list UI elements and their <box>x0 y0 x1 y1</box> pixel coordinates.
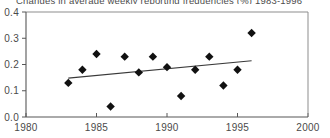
x-axis-ticks <box>26 113 308 117</box>
data-point <box>64 79 72 87</box>
data-point <box>106 102 114 110</box>
y-tick-label: 0.0 <box>4 112 19 123</box>
y-tick-label: 0.2 <box>4 59 19 70</box>
y-tick-label: 0.3 <box>4 33 19 44</box>
chart-title: Changes in average weekly reporting freq… <box>16 0 326 4</box>
trend-line <box>68 61 251 78</box>
y-tick-label: 0.1 <box>4 85 19 96</box>
data-point <box>149 52 157 60</box>
data-point <box>247 29 255 37</box>
x-tick-label: 2000 <box>296 122 320 133</box>
y-axis-labels: 0.00.10.20.30.4 <box>4 7 19 123</box>
y-axis-ticks <box>22 12 26 117</box>
x-tick-label: 1980 <box>14 122 38 133</box>
scatter-plot: 0.00.10.20.30.4 19801985199019952000 <box>0 0 330 138</box>
y-tick-label: 0.4 <box>4 7 19 18</box>
x-axis-labels: 19801985199019952000 <box>14 122 320 133</box>
chart-figure: Changes in average weekly reporting freq… <box>0 0 330 138</box>
x-tick-label: 1985 <box>85 122 109 133</box>
data-point <box>219 81 227 89</box>
data-point <box>163 63 171 71</box>
data-point <box>177 92 185 100</box>
data-point <box>92 50 100 58</box>
data-point <box>78 66 86 74</box>
data-point <box>233 66 241 74</box>
x-tick-label: 1990 <box>155 122 179 133</box>
data-point <box>205 52 213 60</box>
x-tick-label: 1995 <box>226 122 250 133</box>
data-point <box>121 52 129 60</box>
data-point <box>135 68 143 76</box>
